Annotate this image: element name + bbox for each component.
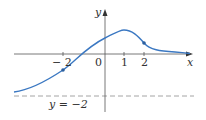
- tick-label-2: 2: [141, 56, 148, 69]
- tick-label-neg2: − 2: [52, 56, 72, 69]
- function-graph: y x − 2 0 1 2 y = −2: [0, 0, 206, 120]
- y-axis-label: y: [94, 6, 102, 19]
- y-axis-arrow-icon: [103, 9, 108, 16]
- point-x-2: [142, 41, 146, 45]
- asymptote-label: y = −2: [48, 98, 88, 111]
- tick-label-0: 0: [95, 56, 102, 69]
- x-axis-label: x: [187, 56, 194, 69]
- function-curve: [14, 30, 190, 92]
- tick-label-1: 1: [121, 56, 128, 69]
